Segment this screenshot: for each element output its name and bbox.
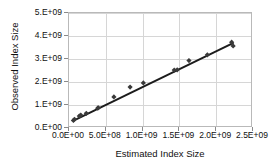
y-tick-label: 1.E+09 xyxy=(2,100,62,109)
plot-area xyxy=(68,12,252,127)
chart-container: Observed Index Size Estimated Index Size… xyxy=(0,0,280,168)
y-tick-label: 5.E+09 xyxy=(2,8,62,17)
x-tick-label: 2.0E+09 xyxy=(199,131,231,140)
y-tick-label: 3.E+09 xyxy=(2,54,62,63)
x-tick-label: 1.0E+09 xyxy=(126,131,158,140)
x-tick-label: 0.0E+00 xyxy=(52,131,84,140)
x-axis-title: Estimated Index Size xyxy=(68,148,252,159)
data-point-marker xyxy=(127,84,132,89)
x-tick-label: 1.5E+09 xyxy=(162,131,194,140)
y-tick-label: 4.E+09 xyxy=(2,31,62,40)
x-tick-label: 2.5E+09 xyxy=(236,131,268,140)
data-point-marker xyxy=(111,94,116,99)
data-point-marker xyxy=(186,58,191,63)
y-axis-title: Observed Index Size xyxy=(9,5,20,129)
x-tick-label: 5.0E+08 xyxy=(89,131,121,140)
data-series-layer xyxy=(69,13,253,128)
y-tick-label: 2.E+09 xyxy=(2,77,62,86)
